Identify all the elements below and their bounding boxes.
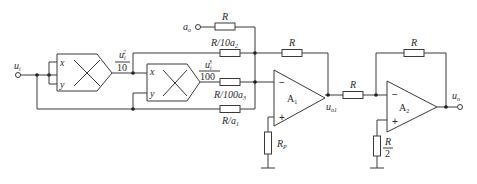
m1-x-label: x xyxy=(59,57,65,68)
resistor-r-in2 xyxy=(343,92,363,99)
junction-dot xyxy=(253,80,257,84)
svg-text:−: − xyxy=(279,77,285,88)
m1-output-label: ui2 10 xyxy=(115,49,130,73)
wire-a2-plus xyxy=(377,120,387,136)
aux-terminal-a0: ao xyxy=(183,21,201,33)
svg-text:100: 100 xyxy=(200,71,215,82)
wire-m1-x xyxy=(49,62,57,75)
svg-text:R/10a2: R/10a2 xyxy=(210,37,238,49)
opamp-a2: − + A2 xyxy=(387,81,437,132)
resistor-r-p2 xyxy=(374,136,381,156)
ground-icon xyxy=(370,156,384,168)
svg-text:2: 2 xyxy=(385,148,390,159)
circuit-schematic: ui x y ui2 10 x y ui3 100 ao xyxy=(0,0,477,184)
wire-m2-y xyxy=(133,93,147,109)
label-r-p2: R 2 xyxy=(383,136,393,159)
svg-text:RP: RP xyxy=(276,138,287,150)
svg-text:R: R xyxy=(384,136,391,147)
svg-text:A2: A2 xyxy=(399,102,409,114)
resistor-r-p xyxy=(265,132,272,154)
m1-y-label: y xyxy=(59,79,65,90)
svg-text:10: 10 xyxy=(117,62,127,73)
input-terminal-ui: ui xyxy=(14,60,21,78)
opamp-a1: − + A1 xyxy=(274,70,325,126)
wire-feedback-a1 xyxy=(255,53,328,95)
label-r-a0: R xyxy=(221,11,228,22)
wire-to-r-a2 xyxy=(133,53,205,73)
junction-dot xyxy=(326,93,330,97)
multiplier-2: x y xyxy=(147,64,200,101)
label-r-f2: R xyxy=(410,37,417,48)
resistor-r-f2 xyxy=(404,50,424,57)
wire-m1-y xyxy=(49,75,57,84)
resistor-r-f1 xyxy=(282,50,302,57)
svg-text:ui2: ui2 xyxy=(119,49,126,61)
svg-text:+: + xyxy=(392,116,398,127)
multiply-cross-icon xyxy=(163,70,187,96)
multiply-cross-icon xyxy=(74,60,100,86)
svg-text:−: − xyxy=(392,89,398,100)
junction-dot xyxy=(444,105,448,109)
resistor-r-a3 xyxy=(220,79,240,86)
svg-text:+: + xyxy=(279,112,285,123)
svg-text:R/a1: R/a1 xyxy=(221,115,239,127)
resistor-r-a2 xyxy=(220,50,240,57)
multiplier-1: x y xyxy=(57,54,112,91)
resistor-r-a1 xyxy=(220,106,240,113)
m2-output-label: ui3 100 xyxy=(199,59,220,82)
svg-text:A1: A1 xyxy=(287,93,297,105)
svg-text:ao: ao xyxy=(183,21,191,33)
ground-icon xyxy=(261,154,275,168)
label-r-in2: R xyxy=(349,79,356,90)
svg-text:ui: ui xyxy=(14,60,21,72)
svg-text:uo1: uo1 xyxy=(326,101,337,113)
svg-text:ui3: ui3 xyxy=(205,59,212,71)
svg-text:uo: uo xyxy=(452,90,460,102)
resistor-r-a0 xyxy=(215,23,235,30)
wire-a1-plus xyxy=(268,117,274,132)
svg-text:R/100a3: R/100a3 xyxy=(213,89,246,101)
m2-y-label: y xyxy=(149,88,155,99)
label-r-f1: R xyxy=(288,37,295,48)
m2-x-label: x xyxy=(149,66,155,77)
